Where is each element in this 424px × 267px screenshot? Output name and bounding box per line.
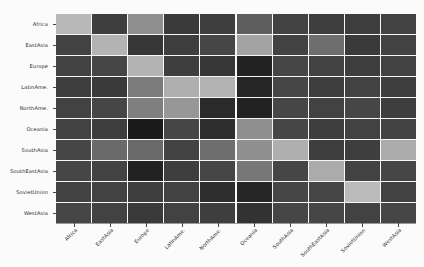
y-axis-tick-labels: AfricaEastAsiaEuropeLatinAme.NorthAme.Oc… bbox=[0, 14, 52, 223]
heatmap-cell bbox=[56, 203, 91, 223]
heatmap-cell bbox=[200, 182, 235, 202]
heatmap-cell bbox=[309, 14, 344, 34]
heatmap-cell bbox=[56, 161, 91, 181]
heatmap-cell bbox=[164, 35, 199, 55]
heatmap-cell bbox=[56, 77, 91, 97]
heatmap-cell bbox=[200, 119, 235, 139]
heatmap-cell bbox=[200, 203, 235, 223]
heatmap-cell bbox=[92, 56, 127, 76]
heatmap-cell bbox=[273, 203, 308, 223]
heatmap-cell bbox=[309, 35, 344, 55]
heatmap-cell bbox=[237, 203, 272, 223]
heatmap-cell bbox=[92, 77, 127, 97]
y-axis-tick-label: SouthAsia bbox=[0, 139, 52, 160]
y-axis-tick-label: SovietUnion bbox=[0, 181, 52, 202]
heatmap-cell bbox=[200, 140, 235, 160]
heatmap-cell bbox=[92, 14, 127, 34]
heatmap-cell bbox=[381, 182, 416, 202]
heatmap-cell bbox=[273, 140, 308, 160]
heatmap-cell bbox=[345, 140, 380, 160]
heatmap-cell bbox=[273, 182, 308, 202]
heatmap-cell bbox=[381, 56, 416, 76]
heatmap-cell bbox=[164, 161, 199, 181]
heatmap-cell bbox=[164, 182, 199, 202]
x-axis-tick-label: WestAsia bbox=[381, 227, 402, 248]
heatmap-cell bbox=[164, 98, 199, 118]
heatmap-cell bbox=[92, 161, 127, 181]
heatmap-cell bbox=[128, 140, 163, 160]
heatmap-cell bbox=[273, 77, 308, 97]
heatmap-cell bbox=[237, 119, 272, 139]
heatmap-cell bbox=[92, 35, 127, 55]
heatmap-cell bbox=[56, 98, 91, 118]
heatmap-cell bbox=[200, 14, 235, 34]
heatmap-cell bbox=[164, 14, 199, 34]
x-axis-tick-label: SovietUnion bbox=[340, 227, 367, 254]
heatmap-cell bbox=[237, 14, 272, 34]
y-axis-tick-label: LatinAme. bbox=[0, 77, 52, 98]
heatmap-cell bbox=[309, 98, 344, 118]
heatmap-cell bbox=[237, 35, 272, 55]
heatmap-cell bbox=[381, 119, 416, 139]
heatmap-cell bbox=[56, 119, 91, 139]
heatmap-cell bbox=[128, 203, 163, 223]
heatmap-cell bbox=[237, 182, 272, 202]
heatmap-cell bbox=[273, 14, 308, 34]
heatmap-cell bbox=[273, 98, 308, 118]
heatmap-cell bbox=[345, 98, 380, 118]
y-axis-tick-label: Africa bbox=[0, 14, 52, 35]
heatmap-cell bbox=[381, 98, 416, 118]
x-axis-tick-label: EastAsia bbox=[94, 227, 114, 247]
heatmap-grid bbox=[56, 14, 416, 223]
heatmap-cell bbox=[273, 35, 308, 55]
y-axis-tick-label: Europe bbox=[0, 56, 52, 77]
heatmap-cell bbox=[164, 203, 199, 223]
heatmap-cell bbox=[56, 56, 91, 76]
x-axis-tick-labels: AfricaEastAsiaEuropeLatinAme.NorthAme.Oc… bbox=[56, 227, 416, 267]
heatmap-cell bbox=[164, 140, 199, 160]
heatmap-cell bbox=[56, 35, 91, 55]
heatmap-cell bbox=[273, 161, 308, 181]
heatmap-cell bbox=[237, 140, 272, 160]
x-axis-tick-label: Oceania bbox=[239, 227, 258, 246]
y-axis-tick-label: Oceania bbox=[0, 119, 52, 140]
heatmap-cell bbox=[200, 77, 235, 97]
heatmap-cell bbox=[345, 182, 380, 202]
heatmap-cell bbox=[345, 119, 380, 139]
heatmap-cell bbox=[128, 161, 163, 181]
heatmap-cell bbox=[128, 56, 163, 76]
heatmap-cell bbox=[309, 182, 344, 202]
heatmap-cell bbox=[56, 140, 91, 160]
heatmap-figure: AfricaEastAsiaEuropeLatinAme.NorthAme.Oc… bbox=[0, 0, 424, 267]
heatmap-cell bbox=[309, 203, 344, 223]
heatmap-cell bbox=[128, 98, 163, 118]
heatmap-cell bbox=[309, 119, 344, 139]
heatmap-cell bbox=[128, 35, 163, 55]
heatmap-cell bbox=[164, 56, 199, 76]
x-axis-tick-label: Europe bbox=[133, 227, 150, 244]
y-axis-tick-label: WestAsia bbox=[0, 202, 52, 223]
heatmap-cell bbox=[200, 56, 235, 76]
heatmap-cell bbox=[309, 56, 344, 76]
x-axis-tick-label: Africa bbox=[63, 227, 78, 242]
heatmap-cell bbox=[200, 161, 235, 181]
heatmap-cell bbox=[56, 14, 91, 34]
heatmap-cell bbox=[128, 14, 163, 34]
heatmap-cell bbox=[237, 77, 272, 97]
heatmap-plot-area bbox=[56, 14, 416, 223]
heatmap-cell bbox=[92, 119, 127, 139]
heatmap-cell bbox=[164, 119, 199, 139]
heatmap-cell bbox=[381, 35, 416, 55]
heatmap-cell bbox=[237, 56, 272, 76]
heatmap-cell bbox=[345, 14, 380, 34]
heatmap-cell bbox=[309, 161, 344, 181]
heatmap-cell bbox=[92, 203, 127, 223]
x-axis-tick-label: NorthAme. bbox=[198, 227, 222, 251]
heatmap-cell bbox=[92, 98, 127, 118]
heatmap-cell bbox=[345, 161, 380, 181]
heatmap-cell bbox=[128, 77, 163, 97]
heatmap-cell bbox=[381, 161, 416, 181]
y-axis-tick-label: NorthAme. bbox=[0, 98, 52, 119]
heatmap-cell bbox=[200, 35, 235, 55]
heatmap-cell bbox=[309, 140, 344, 160]
